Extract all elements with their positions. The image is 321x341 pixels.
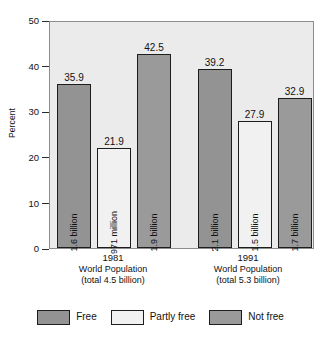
- y-tick-label: 0: [34, 244, 42, 254]
- x-caption-1981: 1981 World Population (total 4.5 billion…: [43, 252, 183, 287]
- y-tick-label: 30: [28, 107, 42, 117]
- plot-area: 35.9 1.6 billion 21.9 971 million 42.5: [49, 21, 314, 249]
- legend-label: Free: [76, 312, 97, 322]
- x-axis-captions: 1981 World Population (total 4.5 billion…: [49, 252, 314, 298]
- bar-group-1981: 35.9 1.6 billion 21.9 971 million 42.5: [50, 22, 178, 248]
- y-tick-label: 10: [28, 199, 42, 209]
- bar-slot: 27.9 1.5 billion: [238, 22, 272, 248]
- bar-1991-free[interactable]: 39.2 2.1 billion: [198, 69, 232, 248]
- bar-value-label: 35.9: [64, 73, 83, 83]
- legend-label: Partly free: [150, 312, 196, 322]
- bar-1981-free[interactable]: 35.9 1.6 billion: [57, 84, 91, 248]
- y-axis-ticks: 50 40 30 20 10 0: [0, 21, 49, 249]
- bar-population-label: 1.9 billion: [150, 213, 159, 251]
- bar-value-label: 42.5: [144, 43, 163, 53]
- bar-slot: 32.9 1.7 billion: [278, 22, 312, 248]
- legend-item-partly-free[interactable]: Partly free: [111, 310, 196, 325]
- chart-legend: Free Partly free Not free: [0, 303, 321, 331]
- legend-label: Not free: [248, 312, 284, 322]
- bar-population-label: 1.6 billion: [70, 213, 79, 251]
- bar-1991-partly-free[interactable]: 27.9 1.5 billion: [238, 121, 272, 248]
- legend-swatch-icon: [111, 310, 144, 325]
- bar-slot: 35.9 1.6 billion: [57, 22, 91, 248]
- tick-mark-icon: [42, 249, 49, 250]
- bar-1981-not-free[interactable]: 42.5 1.9 billion: [137, 54, 171, 248]
- bar-population-label: 2.1 billion: [210, 213, 219, 251]
- bar-population-label: 1.5 billion: [250, 213, 259, 251]
- tick-mark-icon: [42, 112, 49, 113]
- x-caption-line3: (total 4.5 billion): [43, 275, 183, 287]
- x-caption-line2: World Population: [178, 264, 318, 276]
- x-caption-year: 1991: [178, 252, 318, 264]
- legend-item-not-free[interactable]: Not free: [209, 310, 284, 325]
- bar-value-label: 39.2: [205, 58, 224, 68]
- bar-value-label: 27.9: [245, 110, 264, 120]
- legend-swatch-icon: [209, 310, 242, 325]
- legend-item-free[interactable]: Free: [37, 310, 97, 325]
- bar-slot: 21.9 971 million: [97, 22, 131, 248]
- bar-value-label: 32.9: [285, 87, 304, 97]
- tick-mark-icon: [42, 21, 49, 22]
- tick-mark-icon: [42, 66, 49, 67]
- bars-container: 35.9 1.6 billion 21.9 971 million 42.5: [50, 22, 313, 248]
- bar-1991-not-free[interactable]: 32.9 1.7 billion: [278, 98, 312, 248]
- x-caption-year: 1981: [43, 252, 183, 264]
- y-tick-label: 20: [28, 153, 42, 163]
- tick-mark-icon: [42, 203, 49, 204]
- legend-swatch-icon: [37, 310, 70, 325]
- tick-mark-icon: [42, 157, 49, 158]
- bar-group-1991: 39.2 2.1 billion 27.9 1.5 billion 32.9: [194, 22, 315, 248]
- bar-value-label: 21.9: [104, 137, 123, 147]
- y-tick-label: 40: [28, 62, 42, 72]
- x-caption-line3: (total 5.3 billion): [178, 275, 318, 287]
- x-caption-1991: 1991 World Population (total 5.3 billion…: [178, 252, 318, 287]
- bar-population-label: 971 million: [110, 211, 119, 254]
- x-caption-line2: World Population: [43, 264, 183, 276]
- bar-chart: Percent 50 40 30 20 10 0: [0, 0, 321, 341]
- y-tick-label: 50: [28, 16, 42, 26]
- bar-1981-partly-free[interactable]: 21.9 971 million: [97, 148, 131, 248]
- bar-slot: 39.2 2.1 billion: [198, 22, 232, 248]
- bar-slot: 42.5 1.9 billion: [137, 22, 171, 248]
- bar-population-label: 1.7 billion: [290, 213, 299, 251]
